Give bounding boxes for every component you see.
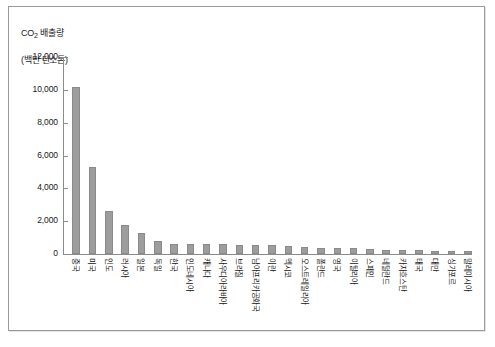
x-axis-category-label: 태국 bbox=[413, 258, 424, 271]
x-axis-category-label: 네덜란드 bbox=[381, 258, 392, 285]
bar-group: 스페인 bbox=[366, 57, 374, 254]
x-axis-category-label: 영국 bbox=[332, 258, 343, 271]
bar bbox=[366, 249, 374, 254]
bar bbox=[121, 225, 129, 254]
bar-group: 이탈리아 bbox=[350, 57, 358, 254]
bar-group: 오스트레일리아 bbox=[301, 57, 309, 254]
y-axis-tick-label: 12,000 bbox=[33, 51, 58, 61]
bar bbox=[415, 250, 423, 254]
bar-group: 인도 bbox=[105, 57, 113, 254]
y-axis-tick-label: 2,000 bbox=[37, 215, 58, 225]
x-axis-category-label: 싱가포르 bbox=[446, 258, 457, 285]
y-axis-tick-label: 0 bbox=[53, 248, 58, 258]
x-axis-category-label: 인도네시아 bbox=[185, 258, 196, 292]
bar bbox=[89, 167, 97, 254]
bar bbox=[464, 251, 472, 254]
x-axis-category-label: 말레이시아 bbox=[462, 258, 473, 292]
bar bbox=[399, 250, 407, 254]
x-axis-category-label: 일본 bbox=[136, 258, 147, 271]
bar-group: 멕시코 bbox=[285, 57, 293, 254]
y-axis-tick: 0 bbox=[9, 254, 69, 255]
bar-group: 미국 bbox=[89, 57, 97, 254]
bar bbox=[285, 246, 293, 254]
bar bbox=[170, 244, 178, 255]
bar-group: 중국 bbox=[72, 57, 80, 254]
x-axis-category-label: 브라질 bbox=[234, 258, 245, 278]
bar bbox=[72, 87, 80, 254]
x-axis-category-label: 이란 bbox=[267, 258, 278, 271]
bar-group: 사우디아라비아 bbox=[219, 57, 227, 254]
x-axis-category-label: 남아프리카공화국 bbox=[250, 258, 261, 312]
y-axis-tick: 4,000 bbox=[9, 188, 69, 189]
bar bbox=[301, 247, 309, 254]
x-axis-category-label: 멕시코 bbox=[283, 258, 294, 278]
x-axis-category-label: 러시아 bbox=[120, 258, 131, 278]
bar-series: 중국미국인도러시아일본독일한국인도네시아캐나다사우디아라비아브라질남아프리카공화… bbox=[64, 57, 472, 254]
bar bbox=[448, 251, 456, 254]
bar bbox=[334, 248, 342, 254]
x-axis-category-label: 캐나다 bbox=[201, 258, 212, 278]
bar bbox=[236, 245, 244, 254]
bar-group: 캐나다 bbox=[203, 57, 211, 254]
bar-group: 태국 bbox=[415, 57, 423, 254]
figure-frame: CO2 배출량 (백만 탄소톤) 12,00010,0008,0006,0004… bbox=[8, 6, 485, 331]
bar-group: 인도네시아 bbox=[187, 57, 195, 254]
bar bbox=[317, 248, 325, 254]
x-axis-category-label: 카자흐스탄 bbox=[397, 258, 408, 292]
y-axis-tick-label: 6,000 bbox=[37, 150, 58, 160]
x-axis-category-label: 독일 bbox=[152, 258, 163, 271]
bar bbox=[187, 244, 195, 254]
bar bbox=[219, 244, 227, 254]
bar-group: 싱가포르 bbox=[448, 57, 456, 254]
bar-group: 브라질 bbox=[236, 57, 244, 254]
y-axis-tick-label: 4,000 bbox=[37, 182, 58, 192]
x-axis-category-label: 사우디아라비아 bbox=[218, 258, 229, 305]
bar-group: 폴란드 bbox=[317, 57, 325, 254]
x-axis-category-label: 스페인 bbox=[364, 258, 375, 278]
bar-group: 한국 bbox=[170, 57, 178, 254]
y-axis-tick-mark bbox=[63, 254, 68, 255]
bar-group: 독일 bbox=[154, 57, 162, 254]
y-axis-tick-label: 10,000 bbox=[33, 84, 58, 94]
y-axis-tick: 12,000 bbox=[9, 57, 69, 58]
x-axis-category-label: 이탈리아 bbox=[348, 258, 359, 285]
y-axis-title-co: CO bbox=[21, 28, 34, 38]
bar bbox=[431, 251, 439, 254]
bar bbox=[252, 245, 260, 254]
bar bbox=[154, 241, 162, 254]
bar bbox=[105, 211, 113, 254]
bar-group: 말레이시아 bbox=[464, 57, 472, 254]
bar-group: 영국 bbox=[334, 57, 342, 254]
bar bbox=[382, 250, 390, 254]
bar-group: 일본 bbox=[138, 57, 146, 254]
bar-group: 대만 bbox=[431, 57, 439, 254]
bar-group: 네덜란드 bbox=[382, 57, 390, 254]
bar bbox=[203, 244, 211, 254]
y-axis-tick: 8,000 bbox=[9, 123, 69, 124]
bar-group: 러시아 bbox=[121, 57, 129, 254]
y-axis-tick: 10,000 bbox=[9, 90, 69, 91]
x-axis-line bbox=[63, 254, 472, 255]
x-axis-category-label: 오스트레일리아 bbox=[299, 258, 310, 305]
x-axis-category-label: 인도 bbox=[103, 258, 114, 271]
x-axis-category-label: 미국 bbox=[87, 258, 98, 271]
y-axis-tick-label: 8,000 bbox=[37, 117, 58, 127]
bar bbox=[138, 233, 146, 254]
plot-area: 12,00010,0008,0006,0004,0002,0000 중국미국인도… bbox=[63, 57, 472, 255]
y-axis-tick: 6,000 bbox=[9, 156, 69, 157]
y-axis-title-rest: 배출량 bbox=[38, 28, 64, 38]
x-axis-category-label: 폴란드 bbox=[315, 258, 326, 278]
x-axis-category-label: 대만 bbox=[430, 258, 441, 271]
x-axis-category-label: 한국 bbox=[169, 258, 180, 271]
bar-group: 남아프리카공화국 bbox=[252, 57, 260, 254]
bar bbox=[350, 248, 358, 254]
bar-group: 이란 bbox=[268, 57, 276, 254]
bar bbox=[268, 245, 276, 254]
x-axis-category-label: 중국 bbox=[71, 258, 82, 271]
y-axis-tick: 2,000 bbox=[9, 221, 69, 222]
bar-group: 카자흐스탄 bbox=[399, 57, 407, 254]
